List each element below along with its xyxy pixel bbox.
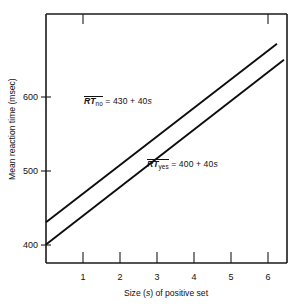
annotation-rt-no: RTno = 430 + 40s xyxy=(84,96,152,106)
x-axis-title-post: ) of positive set xyxy=(150,288,208,298)
annotation-rt-no-symbol: RTno xyxy=(84,96,103,106)
y-axis-title: Mean reaction time (msec) xyxy=(7,78,17,180)
annotation-rt-yes: RTyes = 400 + 40s xyxy=(147,159,218,169)
x-axis-title: Size (s) of positive set xyxy=(124,288,209,298)
x-tick-label-2: 2 xyxy=(117,272,122,282)
series-line-rt-no xyxy=(46,44,277,222)
annotation-rt-yes-equation: = 400 + 40 xyxy=(171,159,213,169)
x-tick-label-3: 3 xyxy=(154,272,159,282)
annotation-rt-no-equation: = 430 + 40 xyxy=(105,96,147,106)
annotation-rt-yes-symbol: RTyes xyxy=(147,159,169,169)
chart-plot: 600 500 400 1 2 3 4 5 6 Mean reaction ti… xyxy=(0,0,306,304)
annotation-rt-yes-prefix: RT xyxy=(147,159,159,169)
series-line-rt-yes xyxy=(46,60,284,245)
annotation-rt-no-variable: s xyxy=(147,96,151,106)
y-tick-label-600: 600 xyxy=(23,92,38,102)
annotation-rt-no-prefix: RT xyxy=(84,96,96,106)
y-tick-label-400: 400 xyxy=(23,240,38,250)
annotation-rt-yes-subscript: yes xyxy=(159,163,169,170)
annotation-rt-yes-variable: s xyxy=(213,159,217,169)
figure-container: 600 500 400 1 2 3 4 5 6 Mean reaction ti… xyxy=(0,0,306,304)
x-tick-label-4: 4 xyxy=(191,272,196,282)
y-tick-label-500: 500 xyxy=(23,166,38,176)
x-axis-title-pre: Size ( xyxy=(124,288,146,298)
annotation-rt-no-subscript: no xyxy=(96,100,103,107)
x-tick-label-5: 5 xyxy=(228,272,233,282)
x-tick-label-6: 6 xyxy=(265,272,270,282)
x-tick-label-1: 1 xyxy=(80,272,85,282)
